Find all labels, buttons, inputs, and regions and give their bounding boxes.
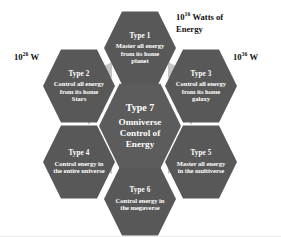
annotation-suffix: W: [28, 52, 39, 62]
hex-title: Type 6: [129, 186, 150, 194]
hex-description: Control energy in the entire universe: [52, 160, 106, 175]
annotation-suffix: W: [247, 52, 258, 62]
hex-description: Control all energy from its home Stars: [52, 80, 106, 102]
hexagon-energy-diagram: Type 1 Master all energy from its home p…: [0, 0, 281, 237]
hex-title: Type 4: [68, 149, 89, 157]
hex-title: Type 3: [190, 70, 211, 78]
hex-title: Type 1: [129, 32, 150, 40]
hex-center-description: Omniverse Control of Energy: [109, 117, 171, 151]
hex-description: Control energy in the megaverse: [113, 197, 167, 212]
annotation-base: 10: [233, 52, 242, 62]
hex-title: Type 2: [68, 70, 89, 78]
hex-tile-type-2[interactable]: Type 2 Control all energy from its home …: [43, 48, 115, 124]
hex-tile-type-1[interactable]: Type 1 Master all energy from its home p…: [104, 10, 176, 86]
annotation-base: 10: [14, 52, 23, 62]
annotation-top-right: 1016 Watts of Energy: [176, 12, 248, 36]
annotation-right: 1036 W: [233, 52, 258, 64]
hex-center-title: Type 7: [126, 102, 154, 113]
annotation-left: 1026 W: [14, 52, 39, 64]
hex-tile-type-6[interactable]: Type 6 Control energy in the megaverse: [104, 161, 176, 237]
hex-title: Type 5: [190, 149, 211, 157]
scan-artifact-line: [0, 236, 281, 237]
hex-description: Master all energy in the multiverse: [174, 160, 228, 175]
hex-description: Master all energy from its home planet: [113, 42, 167, 64]
annotation-base: 10: [176, 12, 185, 22]
hex-description: Control all energy from its home galaxy: [174, 80, 228, 102]
hex-tile-type-3[interactable]: Type 3 Control all energy from its home …: [165, 48, 237, 124]
